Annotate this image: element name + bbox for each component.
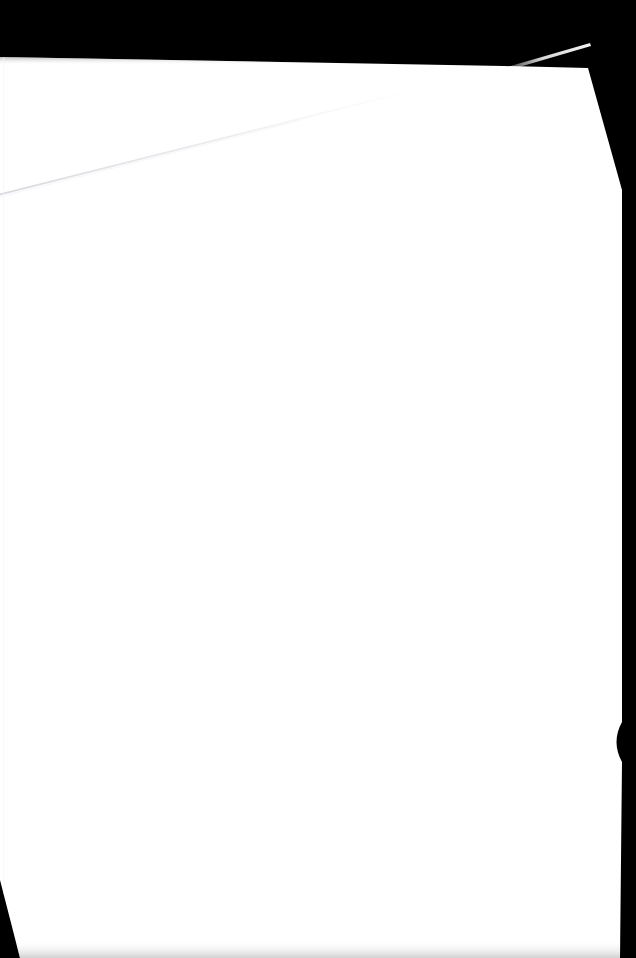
left-scan-streak	[3, 57, 4, 958]
bottom-edge-shadow	[0, 940, 636, 958]
paper-sheet	[0, 57, 622, 958]
page-sheet-graphic	[0, 0, 636, 958]
scanned-page-viewport	[0, 0, 636, 958]
